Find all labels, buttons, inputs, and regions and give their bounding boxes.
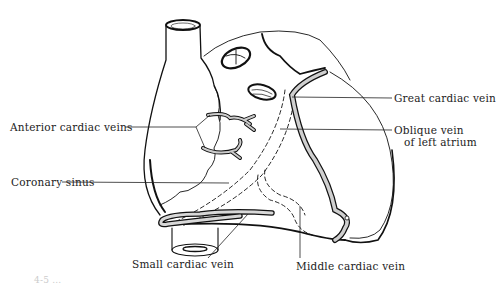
label-oblique-vein-line2: of left atrium [404, 137, 477, 148]
label-oblique-vein-line1: Oblique vein [394, 125, 464, 136]
label-great-cardiac-vein: Great cardiac vein [394, 93, 496, 104]
label-coronary-sinus: Coronary sinus [11, 177, 94, 188]
label-anterior-cardiac-veins: Anterior cardiac veins [10, 122, 133, 133]
superior-vena-cava [144, 26, 166, 215]
label-small-cardiac-vein: Small cardiac vein [132, 259, 234, 270]
figure-caption-fragment: 4-5 ... [34, 275, 61, 283]
label-middle-cardiac-vein: Middle cardiac vein [296, 261, 405, 272]
pulmonary-vein-opening-2 [247, 82, 278, 103]
